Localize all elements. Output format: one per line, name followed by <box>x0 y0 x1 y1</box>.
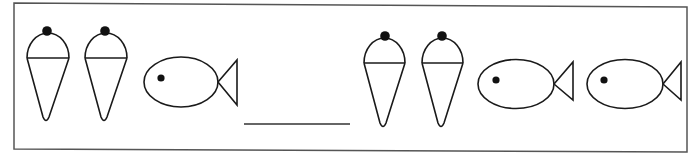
worksheet-border <box>14 3 687 152</box>
pattern-figure <box>0 0 698 157</box>
answer-blank-text <box>244 106 350 122</box>
pattern-worksheet <box>0 0 698 157</box>
